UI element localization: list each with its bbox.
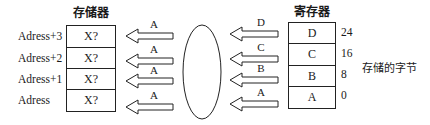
address-label: Adress+3 — [18, 30, 66, 42]
caption-stored-bytes: 存储的字节 — [362, 59, 417, 75]
left-arrow-icon — [230, 27, 278, 41]
register-cell: B — [288, 65, 336, 87]
memory-cell: X? — [66, 68, 116, 90]
memory-cell: X? — [66, 25, 116, 48]
bit-offset-label: 24 — [341, 26, 353, 38]
bit-offset-label: 8 — [341, 68, 347, 80]
arrow-label: A — [144, 64, 164, 76]
address-label: Adress+1 — [18, 73, 66, 85]
bit-offset-label: 16 — [341, 47, 353, 59]
left-arrow-icon — [230, 97, 278, 111]
address-label: Adress — [18, 94, 66, 106]
left-arrow-icon — [230, 73, 278, 87]
register-cell: A — [288, 86, 336, 109]
ellipse-bus — [183, 25, 221, 119]
register-title: 寄存器 — [288, 2, 336, 20]
left-arrow-icon — [126, 74, 173, 88]
left-arrow-icon — [126, 100, 173, 114]
memory-cell: X? — [66, 89, 116, 112]
arrow-label: C — [251, 41, 271, 53]
arrow-label: A — [144, 43, 164, 55]
left-arrow-icon — [126, 29, 173, 43]
bit-offset-label: 0 — [341, 89, 347, 101]
arrow-label: D — [251, 16, 271, 28]
address-label: Adress+2 — [18, 52, 66, 64]
arrow-label: A — [251, 86, 271, 98]
memory-cell: X? — [66, 47, 116, 69]
arrow-label: A — [144, 18, 164, 30]
register-cell: C — [288, 43, 336, 66]
arrow-label: A — [144, 89, 164, 101]
memory-title: 存储器 — [66, 3, 116, 21]
register-cell: D — [288, 22, 336, 44]
arrow-label: B — [251, 62, 271, 74]
